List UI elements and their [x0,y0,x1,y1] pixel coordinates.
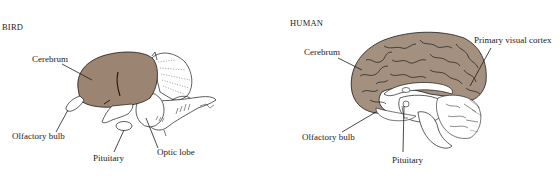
bird-brain-panel: BIRD [0,0,280,182]
human-label-olfactory-bulb: Olfactory bulb [302,132,355,142]
bird-olfactory-bulb [66,96,84,111]
bird-label-optic-lobe: Optic lobe [157,147,195,157]
bird-pituitary-leader [114,130,124,152]
bird-pituitary [116,122,132,131]
human-cerebellum [436,95,482,138]
bird-brain-illustration [0,0,280,182]
bird-cerebellum [152,52,192,100]
human-brain-panel: HUMAN [280,0,560,182]
bird-label-pituitary: Pituitary [93,153,124,163]
bird-label-cerebrum: Cerebrum [32,54,68,64]
human-label-primary-visual-cortex: Primary visual cortex [474,35,551,45]
human-label-pituitary: Pituitary [392,155,423,165]
human-olfactory-leader [342,112,376,132]
human-label-cerebrum: Cerebrum [304,47,340,57]
bird-olfactory-leader [56,110,68,132]
bird-label-olfactory-bulb: Olfactory bulb [12,131,65,141]
